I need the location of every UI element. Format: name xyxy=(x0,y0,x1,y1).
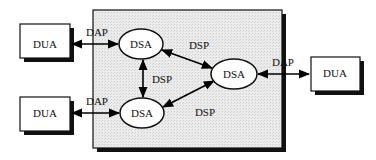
dsa-label: DSA xyxy=(131,107,153,119)
dap-label: DAP xyxy=(86,95,108,107)
dsa-label: DSA xyxy=(223,68,245,80)
dsa-node-top: DSA xyxy=(119,29,163,59)
dsp-label: DSP xyxy=(195,106,215,118)
dsp-label: DSP xyxy=(152,73,172,85)
dap-label: DAP xyxy=(86,26,108,38)
dsa-label: DSA xyxy=(130,38,152,50)
directory-system-diagram: DUA DUA DUA DAP DAP DAP DSP DSP DSP xyxy=(0,0,376,160)
dua-label: DUA xyxy=(33,38,57,50)
dua-label: DUA xyxy=(323,67,347,79)
dua-label: DUA xyxy=(33,107,57,119)
directory-system-region xyxy=(93,10,286,152)
dua-box-bottom-left: DUA xyxy=(20,97,74,135)
dsa-node-right: DSA xyxy=(211,59,257,89)
dap-label: DAP xyxy=(272,56,294,68)
dua-box-top-left: DUA xyxy=(20,24,74,62)
dsp-label: DSP xyxy=(189,39,209,51)
dsa-node-bottom: DSA xyxy=(120,98,164,128)
dua-box-right: DUA xyxy=(311,57,364,95)
